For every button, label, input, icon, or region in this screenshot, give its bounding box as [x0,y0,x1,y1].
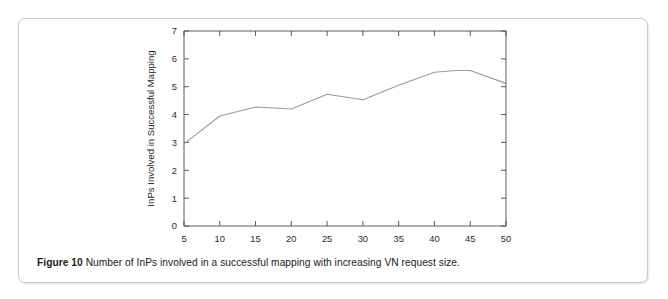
line-chart: 012345675101520253035404550Nodes per VN … [19,19,649,247]
x-tick-label: 35 [393,233,403,244]
figure-panel: 012345675101520253035404550Nodes per VN … [18,18,648,283]
y-tick-label: 0 [172,220,177,231]
data-series-line [184,71,506,144]
x-tick-label: 5 [181,233,186,244]
x-tick-label: 50 [501,233,511,244]
y-tick-label: 5 [172,81,177,92]
y-tick-label: 4 [172,109,177,120]
figure-caption: Figure 10 Number of InPs involved in a s… [37,257,637,268]
x-tick-label: 20 [286,233,296,244]
caption-label: Figure 10 [37,257,83,268]
y-tick-label: 6 [172,53,177,64]
chart-area: 012345675101520253035404550Nodes per VN … [19,19,649,247]
y-tick-label: 3 [172,137,177,148]
x-tick-label: 10 [215,233,225,244]
axes-frame [184,31,506,226]
y-axis-title: InPs Involved in Successful Mapping [145,50,156,206]
page-root: 012345675101520253035404550Nodes per VN … [0,0,668,299]
y-tick-label: 7 [172,25,177,36]
y-tick-label: 2 [172,165,177,176]
x-tick-label: 45 [465,233,475,244]
x-tick-label: 25 [322,233,332,244]
caption-text: Number of InPs involved in a successful … [86,257,460,268]
x-tick-label: 15 [250,233,260,244]
x-tick-label: 40 [429,233,439,244]
x-tick-label: 30 [358,233,368,244]
y-tick-label: 1 [172,193,177,204]
